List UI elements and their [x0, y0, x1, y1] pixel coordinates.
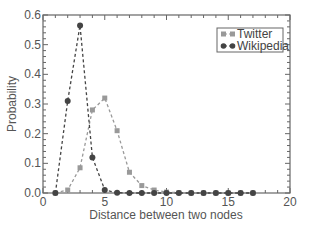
- y-axis-label: Probability: [5, 76, 19, 132]
- circle-marker-icon: [52, 190, 58, 196]
- circle-marker-icon: [238, 190, 244, 196]
- square-marker-icon: [90, 107, 95, 112]
- x-tick-label: 20: [283, 195, 297, 209]
- y-tick-label: 0.0: [24, 186, 41, 200]
- square-marker-icon: [127, 170, 132, 175]
- x-tick-label: 15: [222, 195, 236, 209]
- series-line: [55, 98, 253, 193]
- circle-marker-icon: [89, 154, 95, 160]
- square-marker-icon: [221, 32, 226, 37]
- circle-marker-icon: [164, 190, 170, 196]
- line-chart: 051015200.00.10.20.30.40.50.6 Twitter Wi…: [0, 0, 310, 225]
- y-tick-label: 0.6: [24, 8, 41, 22]
- square-marker-icon: [102, 96, 107, 101]
- square-marker-icon: [115, 128, 120, 133]
- circle-marker-icon: [102, 187, 108, 193]
- circle-marker-icon: [151, 190, 157, 196]
- y-tick-label: 0.2: [24, 127, 41, 141]
- circle-marker-icon: [201, 190, 207, 196]
- square-marker-icon: [65, 188, 70, 193]
- y-tick-label: 0.3: [24, 97, 41, 111]
- circle-marker-icon: [250, 190, 256, 196]
- square-marker-icon: [78, 165, 83, 170]
- y-tick-label: 0.1: [24, 156, 41, 170]
- series-twitter: [53, 96, 256, 196]
- circle-marker-icon: [225, 190, 231, 196]
- square-marker-icon: [139, 183, 144, 188]
- y-tick-label: 0.4: [24, 67, 41, 81]
- square-marker-icon: [230, 32, 235, 37]
- circle-marker-icon: [230, 43, 236, 49]
- legend-label-wikipedia: Wikipedia: [237, 39, 289, 53]
- circle-marker-icon: [188, 190, 194, 196]
- circle-marker-icon: [221, 43, 227, 49]
- circle-marker-icon: [139, 190, 145, 196]
- circle-marker-icon: [114, 190, 120, 196]
- circle-marker-icon: [126, 190, 132, 196]
- x-tick-label: 5: [101, 195, 108, 209]
- circle-marker-icon: [77, 22, 83, 28]
- legend: Twitter Wikipedia: [217, 27, 289, 53]
- circle-marker-icon: [176, 190, 182, 196]
- y-tick-label: 0.5: [24, 38, 41, 52]
- circle-marker-icon: [65, 98, 71, 104]
- x-tick-label: 10: [160, 195, 174, 209]
- x-axis-label: Distance between two nodes: [89, 208, 242, 222]
- circle-marker-icon: [213, 190, 219, 196]
